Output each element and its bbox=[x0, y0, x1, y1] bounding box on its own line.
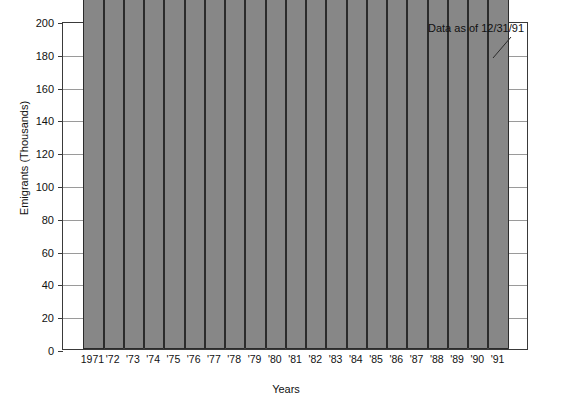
x-axis-tick-label: '86 bbox=[389, 353, 403, 365]
bar-slot: 34,733 bbox=[124, 23, 144, 349]
bar[interactable] bbox=[387, 0, 407, 349]
bar[interactable] bbox=[124, 0, 144, 349]
x-axis-tick-label: 1971 bbox=[81, 353, 104, 365]
bar-slot bbox=[488, 23, 508, 349]
x-axis-tick-label: '77 bbox=[207, 353, 221, 365]
y-axis-tick-label: 0 bbox=[48, 346, 54, 357]
x-axis-tick-label: '79 bbox=[248, 353, 262, 365]
bar-slot: 16,736 bbox=[205, 23, 225, 349]
bar[interactable] bbox=[266, 0, 286, 349]
x-axis-tick-label: '76 bbox=[187, 353, 201, 365]
y-axis-tick-label: 20 bbox=[42, 313, 54, 324]
y-tick-mark bbox=[58, 351, 63, 352]
bar-slot: 20,628 bbox=[144, 23, 164, 349]
bar[interactable] bbox=[488, 0, 508, 349]
plot-area: 020406080100120140160180200 13,02231,681… bbox=[62, 22, 528, 350]
y-axis-title: Emigrants (Thousands) bbox=[18, 73, 30, 243]
bar[interactable] bbox=[245, 0, 265, 349]
bar-slot: 9,447 bbox=[286, 23, 306, 349]
bar[interactable] bbox=[144, 0, 164, 349]
bar[interactable] bbox=[104, 0, 124, 349]
bar-slot: 1,140 bbox=[367, 23, 387, 349]
bar-slot: 51,320 bbox=[245, 23, 265, 349]
x-axis-tick-label: '91 bbox=[491, 353, 505, 365]
x-axis-tick-label: '90 bbox=[471, 353, 485, 365]
x-axis-tick-label: '89 bbox=[450, 353, 464, 365]
y-axis-tick-label: 80 bbox=[42, 214, 54, 225]
y-axis-tick-label: 140 bbox=[36, 116, 54, 127]
y-axis-tick-label: 120 bbox=[36, 149, 54, 160]
data-as-of-annotation: Data as of 12/31/91 bbox=[428, 22, 524, 34]
bar[interactable] bbox=[347, 0, 367, 349]
x-axis-tick-label: '80 bbox=[268, 353, 282, 365]
bar-slot: 21,471 bbox=[266, 23, 286, 349]
bar-slot: 28,864 bbox=[225, 23, 245, 349]
bar[interactable] bbox=[164, 0, 184, 349]
bar-slot: 1,314 bbox=[326, 23, 346, 349]
bar[interactable] bbox=[205, 0, 225, 349]
x-axis-tick-label: '84 bbox=[349, 353, 363, 365]
bar-slot: 14,261 bbox=[185, 23, 205, 349]
bar-slot: 31,681 bbox=[104, 23, 124, 349]
bar[interactable] bbox=[407, 0, 427, 349]
bar-slot: 71,217 bbox=[448, 23, 468, 349]
bar[interactable] bbox=[367, 0, 387, 349]
y-axis-tick-label: 100 bbox=[36, 182, 54, 193]
x-axis-tick-label: '73 bbox=[126, 353, 140, 365]
x-axis-tick-label: '74 bbox=[146, 353, 160, 365]
bar-slot: 896 bbox=[347, 23, 367, 349]
bar[interactable] bbox=[306, 0, 326, 349]
bar-slot: 18,965 bbox=[428, 23, 448, 349]
y-axis-tick-label: 180 bbox=[36, 50, 54, 61]
x-axis-tick-label: '88 bbox=[430, 353, 444, 365]
emigrants-bar-chart: Emigrants (Thousands) 020406080100120140… bbox=[0, 0, 569, 407]
x-axis-tick-label: '87 bbox=[410, 353, 424, 365]
bar-slot: 13,221 bbox=[164, 23, 184, 349]
x-axis-tick-label: '78 bbox=[227, 353, 241, 365]
bar[interactable] bbox=[448, 0, 468, 349]
y-axis-tick-label: 200 bbox=[36, 18, 54, 29]
y-axis-tick-label: 60 bbox=[42, 247, 54, 258]
x-axis-tick-label: '85 bbox=[369, 353, 383, 365]
x-axis-tick-label: '81 bbox=[288, 353, 302, 365]
bar[interactable] bbox=[83, 0, 103, 349]
bars-layer: 13,02231,68134,73320,62813,22114,26116,7… bbox=[63, 23, 527, 349]
bar-slot: 8,155 bbox=[407, 23, 427, 349]
x-axis-tick-label: '72 bbox=[106, 353, 120, 365]
x-axis-tick-label: '75 bbox=[167, 353, 181, 365]
x-axis-title: Years bbox=[56, 383, 516, 395]
bar[interactable] bbox=[468, 0, 488, 349]
bar-slot: 914 bbox=[387, 23, 407, 349]
x-axis-tick-label: '82 bbox=[308, 353, 322, 365]
bar[interactable] bbox=[326, 0, 346, 349]
bar-slot: 2,688 bbox=[306, 23, 326, 349]
bar[interactable] bbox=[225, 0, 245, 349]
bar-slot: 13,022 bbox=[83, 23, 103, 349]
bar[interactable] bbox=[286, 0, 306, 349]
bar-slot bbox=[468, 23, 488, 349]
bar[interactable] bbox=[428, 0, 448, 349]
y-axis-tick-label: 160 bbox=[36, 83, 54, 94]
y-axis-tick-label: 40 bbox=[42, 280, 54, 291]
bar[interactable] bbox=[185, 0, 205, 349]
x-axis-tick-label: '83 bbox=[329, 353, 343, 365]
